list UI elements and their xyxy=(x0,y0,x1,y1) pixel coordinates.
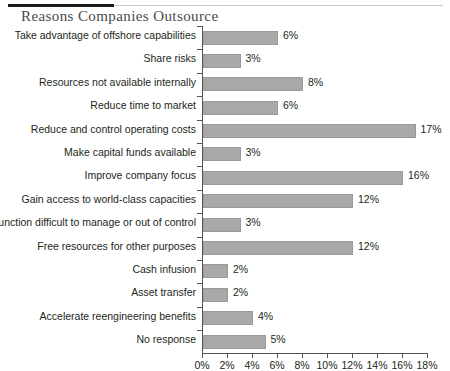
bar-category-label: Asset transfer xyxy=(131,286,196,298)
bar xyxy=(203,264,228,278)
bar-category-label: Resources not available internally xyxy=(39,76,196,88)
plot-area: Take advantage of offshore capabilities6… xyxy=(0,26,450,346)
bar-row: Function difficult to manage or out of c… xyxy=(0,213,450,236)
bar-row: Reduce time to market6% xyxy=(0,96,450,119)
bar xyxy=(203,335,266,349)
y-axis-tick xyxy=(197,120,202,121)
x-axis-tick xyxy=(402,354,403,358)
bar-category-label: Cash infusion xyxy=(132,263,196,275)
bar xyxy=(203,288,228,302)
bar xyxy=(203,241,353,255)
y-axis-tick xyxy=(197,49,202,50)
x-axis-tick xyxy=(252,354,253,358)
bar-row: Gain access to world-class capacities12% xyxy=(0,190,450,213)
x-axis-tick xyxy=(352,354,353,358)
x-axis-tick-label: 8% xyxy=(294,359,309,371)
bar-value-label: 17% xyxy=(421,123,442,135)
bar-row: Asset transfer2% xyxy=(0,283,450,306)
bar-category-label: Reduce and control operating costs xyxy=(31,123,196,135)
bar xyxy=(203,31,278,45)
y-axis-tick xyxy=(197,260,202,261)
y-axis-tick xyxy=(197,143,202,144)
x-axis-tick-label: 0% xyxy=(194,359,209,371)
bar-value-label: 6% xyxy=(283,29,298,41)
bar xyxy=(203,54,241,68)
bar-category-label: Free resources for other purposes xyxy=(37,240,196,252)
bar-row: No response5% xyxy=(0,330,450,353)
bar-row: Accelerate reengineering benefits4% xyxy=(0,307,450,330)
bar-category-label: Reduce time to market xyxy=(90,99,196,111)
bar-value-label: 3% xyxy=(246,52,261,64)
y-axis-tick xyxy=(197,213,202,214)
x-axis-tick xyxy=(202,354,203,358)
bar-value-label: 12% xyxy=(358,240,379,252)
bar-row: Share risks3% xyxy=(0,49,450,72)
header-rule-dark xyxy=(8,4,114,7)
bar-row: Make capital funds available3% xyxy=(0,143,450,166)
y-axis-tick xyxy=(197,190,202,191)
x-axis-tick-label: 12% xyxy=(341,359,362,371)
bar-row: Take advantage of offshore capabilities6… xyxy=(0,26,450,49)
bar-row: Free resources for other purposes12% xyxy=(0,237,450,260)
x-axis-tick-label: 4% xyxy=(244,359,259,371)
bar-value-label: 3% xyxy=(246,216,261,228)
x-axis-tick-label: 10% xyxy=(316,359,337,371)
y-axis-tick xyxy=(197,237,202,238)
y-axis-tick xyxy=(197,73,202,74)
bar xyxy=(203,124,416,138)
bar-value-label: 5% xyxy=(271,333,286,345)
bar xyxy=(203,77,303,91)
bar-category-label: No response xyxy=(136,333,196,345)
page-title: Reasons Companies Outsource xyxy=(21,8,218,25)
bar-value-label: 3% xyxy=(246,146,261,158)
bar xyxy=(203,194,353,208)
header-rule-light xyxy=(114,5,443,6)
bar-category-label: Make capital funds available xyxy=(64,146,196,158)
bar xyxy=(203,147,241,161)
bar-row: Improve company focus16% xyxy=(0,166,450,189)
x-axis-tick-label: 2% xyxy=(219,359,234,371)
y-axis-tick xyxy=(197,283,202,284)
x-axis-tick xyxy=(377,354,378,358)
x-axis-tick xyxy=(227,354,228,358)
x-axis-tick xyxy=(327,354,328,358)
x-axis-ticks: 0%2%4%6%8%10%12%14%16%18% xyxy=(0,353,450,371)
bar xyxy=(203,218,241,232)
bar-value-label: 4% xyxy=(258,310,273,322)
bar xyxy=(203,101,278,115)
bar-value-label: 2% xyxy=(233,263,248,275)
y-axis-tick xyxy=(197,166,202,167)
bar xyxy=(203,311,253,325)
bar-category-label: Improve company focus xyxy=(85,169,196,181)
bar-category-label: Share risks xyxy=(143,52,196,64)
x-axis-tick-label: 14% xyxy=(366,359,387,371)
x-axis-tick-label: 16% xyxy=(391,359,412,371)
bar xyxy=(203,171,403,185)
y-axis-tick xyxy=(197,26,202,27)
x-axis-tick xyxy=(427,354,428,358)
bar-value-label: 12% xyxy=(358,193,379,205)
x-axis-tick xyxy=(277,354,278,358)
bar-rows: Take advantage of offshore capabilities6… xyxy=(0,26,450,353)
bar-row: Reduce and control operating costs17% xyxy=(0,120,450,143)
bar-value-label: 8% xyxy=(308,76,323,88)
x-axis-tick-label: 18% xyxy=(416,359,437,371)
y-axis-tick xyxy=(197,96,202,97)
bar-row: Resources not available internally8% xyxy=(0,73,450,96)
bar-value-label: 6% xyxy=(283,99,298,111)
y-axis-tick xyxy=(197,330,202,331)
bar-value-label: 2% xyxy=(233,286,248,298)
bar-category-label: Take advantage of offshore capabilities xyxy=(15,29,196,41)
x-axis-tick-label: 6% xyxy=(269,359,284,371)
bar-value-label: 16% xyxy=(408,169,429,181)
bar-category-label: Function difficult to manage or out of c… xyxy=(0,216,196,228)
chart-page: Reasons Companies Outsource Take advanta… xyxy=(0,0,450,371)
bar-category-label: Accelerate reengineering benefits xyxy=(40,310,196,322)
bar-row: Cash infusion2% xyxy=(0,260,450,283)
bar-category-label: Gain access to world-class capacities xyxy=(22,193,197,205)
x-axis-tick xyxy=(302,354,303,358)
y-axis-tick xyxy=(197,307,202,308)
